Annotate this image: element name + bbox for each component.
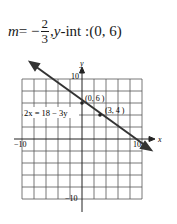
x-axis-label: x xyxy=(157,135,162,144)
x-min-label: −10 xyxy=(14,140,27,149)
y-min-label: −10 xyxy=(65,194,78,203)
equation-label: 2x = 18 − 3y xyxy=(24,108,68,118)
point-label-3-4: (3, 4 ) xyxy=(105,106,125,115)
y-max-label: 10 xyxy=(71,72,79,81)
y-axis-label: y xyxy=(79,59,84,68)
x-axis-arrow-icon xyxy=(149,137,155,142)
plotted-line xyxy=(30,62,151,150)
point-3-4 xyxy=(98,113,102,117)
point-0-6 xyxy=(80,101,84,105)
point-label-0-6: (0, 6 ) xyxy=(85,94,105,103)
coordinate-graph: x y −10 10 10 −10 (0, 6 ) (3, 4 ) 2x = 1… xyxy=(0,0,177,224)
